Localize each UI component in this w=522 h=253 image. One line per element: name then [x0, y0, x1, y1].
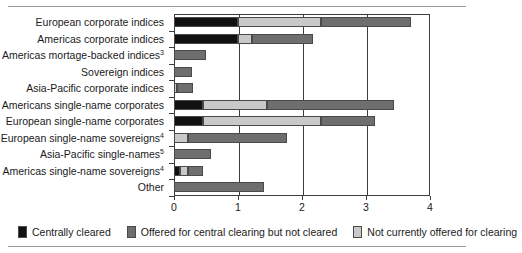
stacked-bar [174, 182, 264, 192]
top-divider-rule [8, 6, 466, 7]
bar-segment [174, 50, 206, 60]
x-axis-tick [366, 196, 367, 200]
bar-segment [174, 182, 264, 192]
x-axis-tick [302, 196, 303, 200]
x-axis-tick-label: 4 [427, 201, 433, 213]
bar-segment [203, 100, 267, 110]
stacked-bar [174, 50, 206, 60]
legend-swatch-icon [127, 226, 136, 238]
stacked-bar [174, 17, 411, 27]
footnote-marker: 5 [160, 148, 164, 155]
x-axis-tick [430, 196, 431, 200]
bar-row [174, 31, 430, 48]
bar-segment [203, 116, 321, 126]
x-axis-tick-label: 0 [171, 201, 177, 213]
bar-segment [267, 100, 394, 110]
bar-segment [174, 17, 238, 27]
bar-segment [174, 149, 211, 159]
footnote-marker: 3 [160, 49, 164, 56]
y-axis-label: Americas mortage-backed indices3 [2, 47, 164, 64]
bar-row [174, 163, 430, 180]
y-axis-label: European corporate indices [36, 14, 164, 31]
x-axis-tick-label: 1 [235, 201, 241, 213]
bar-segment [174, 100, 203, 110]
y-axis-label: Sovereign indices [81, 64, 164, 81]
chart-legend: Centrally clearedOffered for central cle… [18, 225, 522, 239]
legend-item: Offered for central clearing but not cle… [127, 226, 338, 238]
stacked-bar [174, 133, 287, 143]
bar-segment [174, 34, 238, 44]
bar-row [174, 130, 430, 147]
y-axis-label: European single-name corporates [6, 113, 164, 130]
legend-label: Centrally cleared [32, 226, 111, 238]
bar-segment [177, 83, 193, 93]
legend-label: Offered for central clearing but not cle… [141, 226, 338, 238]
x-axis-tick [174, 196, 175, 200]
stacked-bar [174, 100, 394, 110]
bar-segment [321, 116, 375, 126]
bar-row [174, 47, 430, 64]
bar-row [174, 146, 430, 163]
bar-segment [180, 166, 188, 176]
y-axis-label: Americas single-name sovereigns4 [3, 163, 164, 180]
footnote-marker: 4 [160, 164, 164, 171]
legend-item: Centrally cleared [18, 226, 111, 238]
bar-segment [321, 17, 411, 27]
bar-segment [238, 34, 252, 44]
x-axis-tick [238, 196, 239, 200]
y-axis-label: European single-name sovereigns4 [1, 130, 164, 147]
legend-swatch-icon [18, 226, 27, 238]
y-axis-label: Other [138, 179, 164, 196]
stacked-bar [174, 116, 375, 126]
x-axis-tick-label: 2 [299, 201, 305, 213]
x-axis-tick-label: 3 [363, 201, 369, 213]
bar-series-container [174, 14, 430, 196]
bar-row [174, 80, 430, 97]
y-axis-label: Americans single-name corporates [2, 97, 164, 114]
bar-row [174, 97, 430, 114]
bar-segment [188, 133, 287, 143]
bottom-divider-rule [8, 246, 466, 247]
bar-segment [188, 166, 203, 176]
stacked-bar [174, 166, 203, 176]
bar-row [174, 113, 430, 130]
x-axis: 01234 [174, 196, 430, 220]
bar-segment [174, 116, 203, 126]
bar-segment [174, 67, 192, 77]
stacked-bar [174, 83, 193, 93]
bar-segment [238, 17, 321, 27]
stacked-bar [174, 149, 211, 159]
legend-label: Not currently offered for clearing [367, 226, 517, 238]
bar-row [174, 64, 430, 81]
y-axis-category-labels: European corporate indicesAmericas corpo… [0, 14, 170, 196]
footnote-marker: 4 [160, 131, 164, 138]
bar-segment [252, 34, 313, 44]
y-axis-label: Asia-Pacific single-names5 [40, 146, 164, 163]
legend-item: Not currently offered for clearing [353, 226, 517, 238]
bar-row [174, 179, 430, 196]
stacked-bar [174, 34, 313, 44]
bar-segment [174, 133, 188, 143]
stacked-bar [174, 67, 192, 77]
legend-swatch-icon [353, 226, 362, 238]
y-axis-label: Asia-Pacific corporate indices [26, 80, 164, 97]
y-axis-label: Americas corporate indices [37, 31, 164, 48]
bar-row [174, 14, 430, 31]
